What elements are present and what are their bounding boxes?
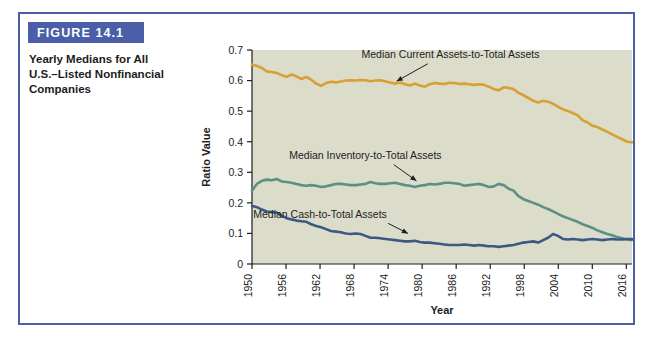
x-axis-title: Year — [430, 304, 454, 316]
x-tick-label: 1980 — [412, 274, 424, 298]
series-label-0: Median Current Assets-to-Total Assets — [362, 48, 540, 60]
figure-frame: FIGURE 14.1 Yearly Medians for All U.S.–… — [18, 12, 635, 325]
x-tick-label: 2016 — [616, 274, 628, 298]
y-tick-label: 0.2 — [228, 197, 243, 209]
x-tick-label: 2010 — [582, 274, 594, 298]
y-tick-label: 0.1 — [228, 227, 243, 239]
figure-number-badge: FIGURE 14.1 — [28, 22, 144, 43]
y-axis-ticks: 00.10.20.30.40.50.60.7 — [228, 44, 252, 270]
x-tick-label: 1950 — [242, 274, 254, 298]
y-tick-label: 0 — [237, 258, 243, 270]
chart-container: 00.10.20.30.40.50.60.7 19501956196219681… — [188, 14, 637, 323]
x-tick-label: 1992 — [480, 274, 492, 298]
figure-caption-block: FIGURE 14.1 Yearly Medians for All U.S.–… — [20, 14, 188, 97]
x-tick-label: 1998 — [514, 274, 526, 298]
figure-caption-text: Yearly Medians for All U.S.–Listed Nonfi… — [29, 52, 179, 97]
x-tick-label: 1968 — [344, 274, 356, 298]
x-tick-label: 1962 — [310, 274, 322, 298]
series-label-2: Median Cash-to-Total Assets — [253, 208, 387, 220]
x-tick-label: 1956 — [276, 274, 288, 298]
x-tick-label: 1986 — [446, 274, 458, 298]
y-tick-label: 0.6 — [228, 74, 243, 86]
y-tick-label: 0.7 — [228, 44, 243, 56]
y-tick-label: 0.3 — [228, 166, 243, 178]
series-label-1: Median Inventory-to-Total Assets — [289, 149, 441, 161]
x-axis-ticks: 1950195619621968197419801986199219982004… — [242, 264, 628, 297]
x-tick-label: 1974 — [378, 274, 390, 298]
x-tick-label: 2004 — [548, 274, 560, 298]
y-tick-label: 0.4 — [228, 136, 243, 148]
y-tick-label: 0.5 — [228, 105, 243, 117]
line-chart: 00.10.20.30.40.50.60.7 19501956196219681… — [188, 14, 637, 323]
y-axis-title: Ratio Value — [200, 127, 212, 186]
